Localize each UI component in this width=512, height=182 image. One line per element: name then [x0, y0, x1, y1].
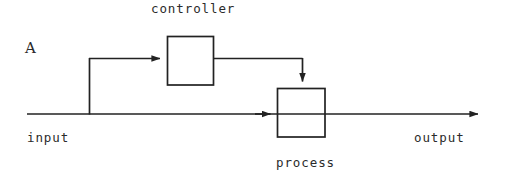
block-diagram-figure: controller A input output process: [0, 0, 512, 182]
input-label: input: [27, 132, 69, 145]
controller-block-label: controller: [151, 3, 235, 16]
process-block-label: process: [276, 157, 335, 170]
process-block: [278, 89, 326, 138]
output-label: output: [414, 132, 465, 145]
diagram-canvas: [0, 0, 512, 182]
controller-block: [168, 37, 214, 86]
panel-label-a: A: [25, 41, 36, 56]
